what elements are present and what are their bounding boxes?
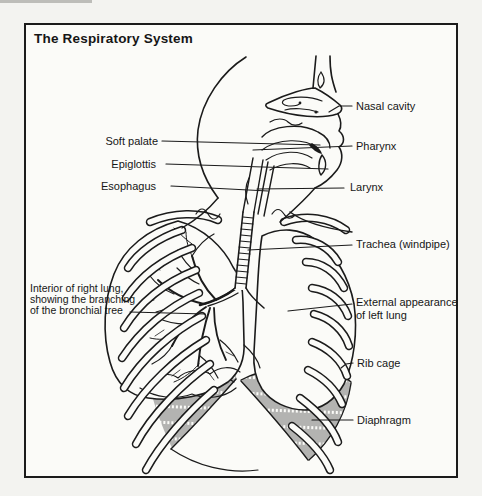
label-larynx: Larynx <box>350 181 383 194</box>
label-interior-right-lung: Interior of right lung, showing the bran… <box>30 283 170 315</box>
label-external-line1: External appearance <box>356 296 458 309</box>
label-external-line2: of left lung <box>356 309 458 322</box>
label-interior-line3: of the bronchial tree <box>30 305 170 316</box>
figure-page: The Respiratory System <box>0 0 482 496</box>
label-interior-line2: showing the branching <box>30 294 170 305</box>
label-pharynx: Pharynx <box>356 140 396 153</box>
label-nasal-cavity: Nasal cavity <box>356 100 415 113</box>
label-rib-cage: Rib cage <box>357 357 400 370</box>
label-external-left-lung: External appearance of left lung <box>356 296 458 321</box>
label-soft-palate: Soft palate <box>60 135 158 148</box>
label-trachea: Trachea (windpipe) <box>356 238 450 251</box>
label-esophagus: Esophagus <box>60 180 156 193</box>
label-diaphragm: Diaphragm <box>357 414 411 427</box>
label-epiglottis: Epiglottis <box>60 158 156 171</box>
